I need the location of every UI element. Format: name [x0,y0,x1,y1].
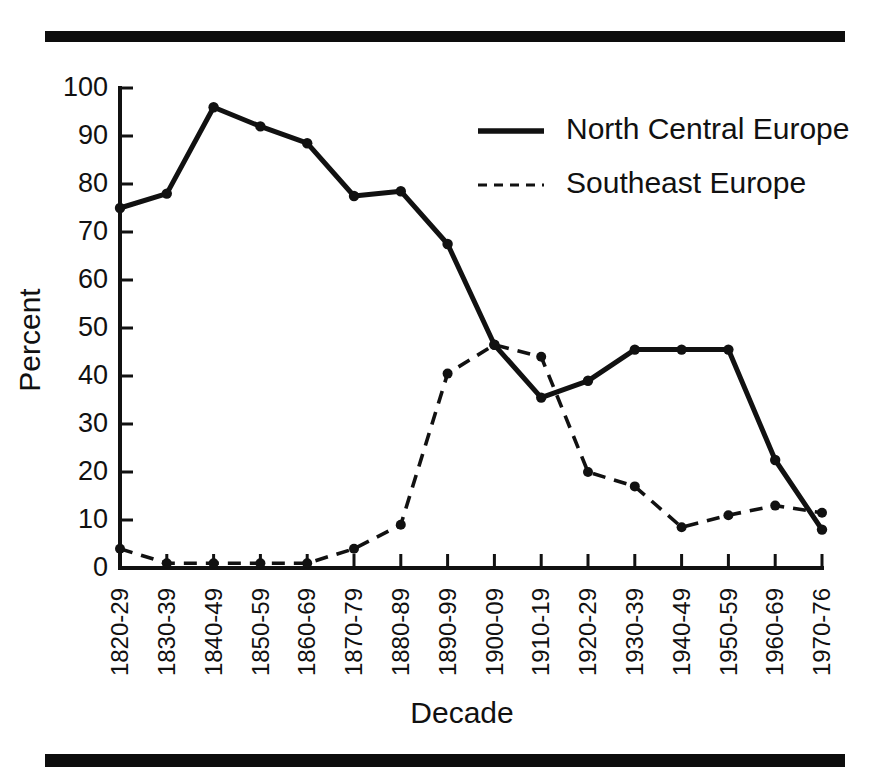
y-axis: 0102030405060708090100 [63,72,133,582]
data-point-marker [770,455,780,465]
data-point-marker [349,544,359,554]
data-point-marker [255,121,265,131]
y-axis-tick-label: 70 [78,216,108,246]
data-point-marker [396,520,406,530]
x-axis-tick-label: 1930-39 [621,588,648,676]
data-point-marker [536,392,546,402]
legend-label: North Central Europe [566,112,849,145]
x-axis-tick-label: 1910-19 [527,588,554,676]
y-axis-tick-label: 100 [63,72,108,102]
x-axis-tick-label: 1940-49 [668,588,695,676]
data-point-marker [349,191,359,201]
data-point-marker [162,558,172,568]
data-point-marker [536,352,546,362]
y-axis-tick-label: 20 [78,456,108,486]
legend: North Central EuropeSoutheast Europe [478,112,849,199]
data-point-marker [677,522,687,532]
y-axis-tick-label: 0 [93,552,108,582]
data-point-marker [583,467,593,477]
x-axis-tick-label: 1820-29 [106,588,133,676]
x-axis-tick-label: 1970-76 [808,588,835,676]
y-axis-tick-label: 80 [78,168,108,198]
x-axis-tick-label: 1830-39 [153,588,180,676]
data-point-marker [723,510,733,520]
y-axis-tick-label: 50 [78,312,108,342]
data-point-marker [676,344,686,354]
data-point-marker [115,544,125,554]
data-point-marker [396,186,406,196]
x-axis-tick-label: 1920-29 [574,588,601,676]
x-axis: 1820-291830-391840-491850-591860-691870-… [106,554,835,676]
data-point-marker [302,558,312,568]
series-line-dashed [120,345,822,563]
data-point-marker [255,558,265,568]
legend-label: Southeast Europe [566,166,806,199]
data-point-marker [442,239,452,249]
data-point-marker [770,501,780,511]
chart-canvas: 0102030405060708090100 1820-291830-39184… [0,0,871,783]
data-point-marker [162,188,172,198]
y-axis-tick-label: 10 [78,504,108,534]
x-axis-tick-label: 1840-49 [200,588,227,676]
data-point-marker [583,376,593,386]
x-axis-tick-label: 1950-59 [715,588,742,676]
x-axis-tick-label: 1880-89 [387,588,414,676]
data-point-marker [817,524,827,534]
data-point-marker [723,344,733,354]
data-point-marker [208,102,218,112]
y-axis-tick-label: 90 [78,120,108,150]
x-axis-tick-label: 1850-59 [247,588,274,676]
x-axis-tick-label: 1900-09 [481,588,508,676]
data-point-marker [302,138,312,148]
data-point-marker [630,481,640,491]
x-axis-title: Decade [410,696,513,729]
data-point-marker [115,203,125,213]
y-axis-tick-label: 60 [78,264,108,294]
x-axis-tick-label: 1870-79 [340,588,367,676]
data-point-marker [817,508,827,518]
data-point-marker [443,369,453,379]
x-axis-tick-label: 1860-69 [293,588,320,676]
data-point-marker [630,344,640,354]
y-axis-tick-label: 40 [78,360,108,390]
x-axis-tick-label: 1960-69 [761,588,788,676]
x-axis-tick-label: 1890-99 [434,588,461,676]
line-chart-figure: 0102030405060708090100 1820-291830-39184… [0,0,871,783]
data-point-marker [489,340,499,350]
y-axis-title: Percent [13,288,46,392]
y-axis-tick-label: 30 [78,408,108,438]
data-point-marker [209,558,219,568]
